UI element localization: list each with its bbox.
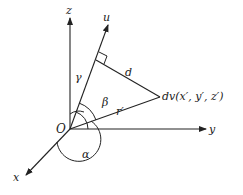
alpha-label: α bbox=[82, 148, 90, 161]
diagram-canvas: z u y x O γ β α d r′ dv(x′, y′, z′) bbox=[0, 0, 243, 195]
d-label: d bbox=[125, 66, 132, 79]
gamma-label: γ bbox=[75, 71, 82, 84]
z-label: z bbox=[65, 4, 72, 17]
x-label: x bbox=[13, 171, 20, 184]
coordinate-diagram: z u y x O γ β α d r′ dv(x′, y′, z′) bbox=[0, 0, 243, 195]
y-label: y bbox=[208, 123, 216, 136]
beta-label: β bbox=[101, 96, 108, 109]
r-prime-label: r′ bbox=[116, 105, 124, 118]
u-label: u bbox=[103, 11, 110, 24]
point-label: dv(x′, y′, z′) bbox=[162, 90, 224, 103]
r-prime-line bbox=[70, 97, 160, 129]
origin-label: O bbox=[56, 122, 66, 136]
